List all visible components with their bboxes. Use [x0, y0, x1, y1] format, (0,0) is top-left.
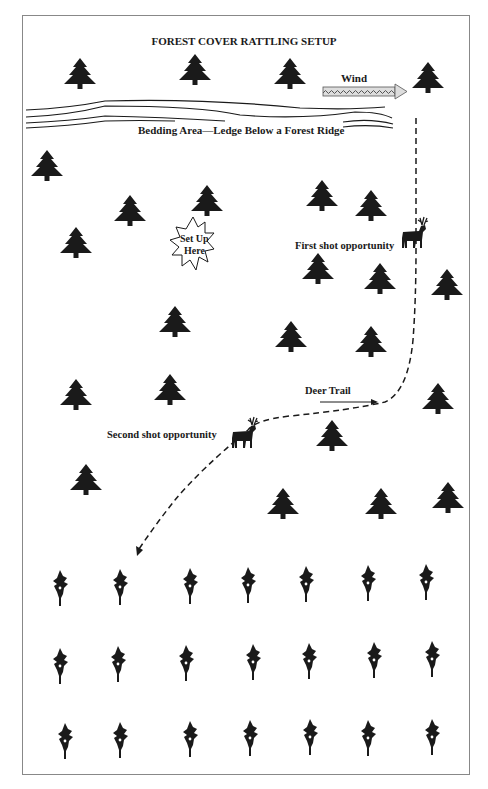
first-shot-label: First shot opportunity — [295, 240, 394, 251]
diagram-title: FOREST COVER RATTLING SETUP — [0, 35, 488, 47]
wind-arrow-icon — [323, 84, 407, 99]
bedding-area-label: Bedding Area—Ledge Below a Forest Ridge — [138, 124, 344, 136]
deer-trail-label: Deer Trail — [305, 385, 351, 396]
wind-label: Wind — [341, 72, 367, 84]
deer-icon — [232, 417, 258, 448]
setup-label-line1: Set Up — [180, 233, 209, 244]
deer-icon — [402, 217, 428, 248]
direction-arrow-icon — [320, 399, 378, 405]
diagram-canvas — [0, 0, 488, 789]
setup-label-line2: Here — [184, 245, 205, 256]
corn-field — [53, 564, 440, 759]
second-shot-label: Second shot opportunity — [107, 429, 217, 440]
